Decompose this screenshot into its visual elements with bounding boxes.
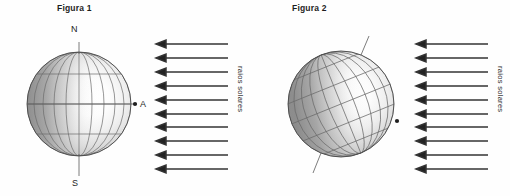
solar-ray (416, 151, 488, 159)
solar-ray (156, 123, 228, 131)
figure-panel-2: Figura 2 (255, 0, 510, 196)
solar-ray (156, 151, 228, 159)
solar-ray (416, 137, 488, 145)
solar-ray (416, 82, 488, 90)
solar-rays-group-2 (410, 0, 505, 196)
solar-ray (156, 40, 228, 48)
figure-1-solar-rays-label: raios solares (236, 66, 245, 112)
figure-1-point-a-label: A (140, 99, 146, 109)
solar-ray (416, 40, 488, 48)
solar-ray (416, 110, 488, 118)
solar-ray (156, 165, 228, 173)
solar-ray (156, 54, 228, 62)
solar-ray (156, 82, 228, 90)
figure-1-north-pole-label: N (71, 24, 78, 34)
figure-1-south-pole-label: S (72, 178, 78, 188)
solar-ray (416, 165, 488, 173)
solar-ray (156, 96, 228, 104)
figure-2-solar-rays-label: raios solares (496, 66, 505, 112)
solar-ray (156, 137, 228, 145)
solar-ray (156, 68, 228, 76)
figure-sheet: Figura 1 (0, 0, 510, 196)
solar-rays-group-1 (150, 0, 240, 196)
solar-ray (156, 110, 228, 118)
solar-ray (416, 123, 488, 131)
solar-ray (416, 68, 488, 76)
figure-panel-1: Figura 1 (0, 0, 255, 196)
solar-ray (416, 54, 488, 62)
solar-ray (416, 96, 488, 104)
